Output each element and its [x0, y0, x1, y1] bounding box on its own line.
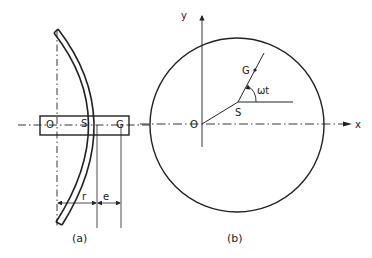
whirl-circle — [150, 38, 324, 212]
rotor-whirl-figure: O S G r e (a) y x O S G ωt (b) — [0, 0, 372, 258]
label-omega-t: ωt — [257, 85, 269, 96]
label-o-a: O — [46, 119, 54, 130]
label-o-b: O — [190, 119, 198, 130]
panel-a: O S G r e (a) — [18, 29, 150, 245]
g-point — [253, 68, 256, 71]
label-s-b: S — [235, 107, 241, 118]
line-o-to-s — [202, 102, 238, 124]
caption-b: (b) — [227, 232, 243, 245]
label-g-b: G — [242, 65, 250, 76]
label-e: e — [103, 191, 109, 202]
label-s-a: S — [81, 118, 87, 129]
caption-a: (a) — [72, 232, 87, 245]
label-y: y — [181, 10, 187, 21]
label-g-a: G — [116, 119, 124, 130]
label-x: x — [355, 119, 361, 130]
panel-b: y x O S G ωt (b) — [140, 10, 361, 245]
label-r: r — [82, 191, 87, 202]
